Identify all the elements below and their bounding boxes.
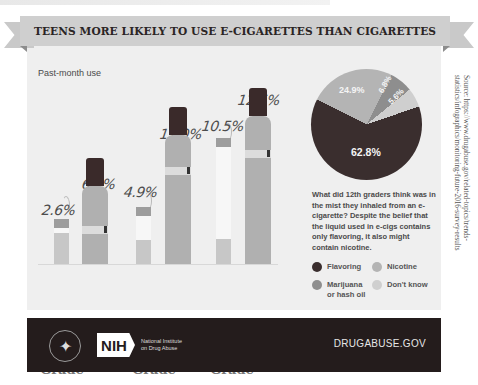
bar-label-cig-10th: 4.9% — [123, 184, 159, 200]
bar-ecigarette-12th — [245, 116, 271, 264]
legend-label-line: Marijuana — [327, 280, 362, 289]
pie-description: What did 12th graders think was in the m… — [312, 190, 437, 253]
legend-swatch-icon — [312, 262, 322, 272]
ecig-mouthpiece — [86, 158, 104, 186]
bar-ecigarette-8th — [82, 186, 108, 264]
legend-item-flavoring: Flavoring — [312, 262, 361, 272]
cigarette-filter — [54, 219, 69, 228]
website-label: DRUGABUSE.GOV — [334, 338, 426, 349]
legend-label: Nicotine — [387, 262, 417, 272]
cigarette-filter — [216, 138, 231, 147]
bar-ecigarette-10th — [165, 135, 191, 264]
nida-name: National Institute on Drug Abuse — [141, 338, 182, 351]
legend-label: Flavoring — [327, 262, 361, 272]
cropped-caption-strip — [0, 0, 330, 5]
bar-cigarette-10th — [136, 207, 151, 264]
legend-swatch-icon — [312, 280, 322, 290]
legend-item-nicotine: Nicotine — [372, 262, 417, 272]
bar-cigarette-8th — [54, 219, 69, 264]
ecig-button — [104, 226, 107, 233]
chart-subtitle: Past-month use — [38, 68, 101, 78]
pie-chart — [311, 69, 422, 180]
legend-label: Marijuana or hash oil — [327, 280, 365, 300]
bar-chart: 2.6% 6.2% 8th Grade 4.9% 11.0% 10th Grad… — [40, 80, 285, 264]
nih-logo: NIH — [97, 333, 135, 357]
footer-bar: ✦ NIH National Institute on Drug Abuse D… — [27, 318, 441, 372]
bar-cigarette-12th — [216, 138, 231, 264]
legend-swatch-icon — [372, 262, 382, 272]
legend-swatch-icon — [372, 280, 382, 290]
eagle-icon: ✦ — [59, 337, 72, 356]
pie-label-flavoring: 62.8% — [351, 146, 381, 158]
bar-label-cig-12th: 10.5% — [201, 118, 245, 134]
legend-label: Don't know — [387, 280, 428, 290]
ecig-mouthpiece — [169, 107, 187, 135]
hhs-logo-icon: ✦ — [49, 330, 81, 362]
ecig-button — [187, 167, 190, 174]
ecig-mouthpiece — [249, 88, 267, 116]
page-title: TEENS MORE LIKELY TO USE E-CIGARETTES TH… — [34, 25, 436, 37]
title-banner: TEENS MORE LIKELY TO USE E-CIGARETTES TH… — [20, 16, 450, 46]
bar-label-cig-8th: 2.6% — [41, 202, 77, 218]
cigarette-filter — [136, 207, 151, 216]
source-citation: Source: https://www.drugabuse.gov/relate… — [452, 75, 470, 320]
nida-name-line: on Drug Abuse — [141, 345, 182, 352]
legend-item-dontknow: Don't know — [372, 280, 428, 290]
legend-label-line: or hash oil — [327, 290, 365, 299]
legend-item-marijuana: Marijuana or hash oil — [312, 280, 365, 300]
cigarette-paper — [136, 216, 151, 240]
cigarette-paper — [54, 228, 69, 233]
pie-label-nicotine: 24.9% — [339, 85, 365, 95]
chart-baseline — [38, 264, 278, 265]
nida-name-line: National Institute — [141, 338, 182, 345]
cigarette-paper — [216, 147, 231, 239]
ecig-button — [267, 150, 270, 157]
